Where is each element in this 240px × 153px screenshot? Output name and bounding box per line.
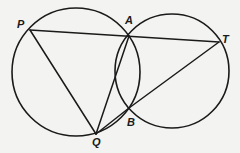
segment-qa (96, 36, 129, 134)
right-circle (115, 14, 229, 128)
point-label-a: A (124, 14, 133, 26)
segment-bt (129, 42, 219, 108)
segment-pq (30, 30, 96, 134)
point-label-t: T (222, 33, 230, 45)
geometry-diagram: P A T B Q (0, 0, 240, 153)
point-label-b: B (127, 116, 135, 128)
left-circle (12, 8, 140, 136)
point-label-p: P (17, 18, 25, 30)
diagram-svg: P A T B Q (0, 0, 240, 153)
point-label-q: Q (92, 136, 101, 148)
